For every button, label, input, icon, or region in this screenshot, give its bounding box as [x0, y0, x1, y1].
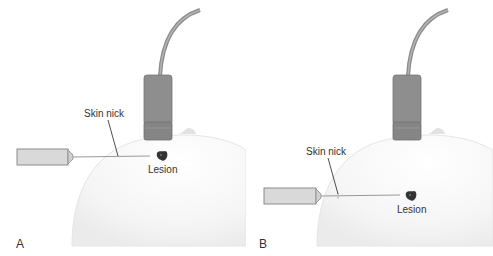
panel-b-illustration: Skin nick Lesion B [247, 0, 493, 256]
transducer-footplate [144, 122, 172, 140]
lesion-label: Lesion [397, 204, 426, 215]
skin-nick-label: Skin nick [84, 108, 125, 119]
panel-letter: B [259, 237, 267, 251]
transducer-footplate [393, 122, 421, 140]
syringe-hub [316, 189, 321, 203]
panel-b: Skin nick Lesion B [247, 0, 493, 256]
ultrasound-transducer [393, 75, 421, 125]
skin-nick-label: Skin nick [306, 146, 347, 157]
panel-letter: A [16, 237, 24, 251]
syringe-barrel [17, 149, 68, 165]
lesion-label: Lesion [148, 164, 177, 175]
syringe-barrel [264, 188, 316, 204]
panel-a: Skin nick Lesion A [0, 0, 246, 256]
panel-a-illustration: Skin nick Lesion A [0, 0, 246, 256]
ultrasound-transducer [144, 75, 172, 125]
nipple-shape [178, 128, 196, 134]
syringe-hub [68, 150, 73, 164]
nipple-shape [427, 128, 445, 134]
